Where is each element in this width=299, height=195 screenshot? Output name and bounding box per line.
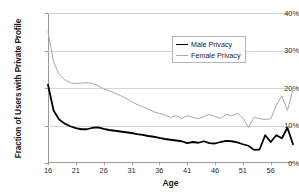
x-tick-label: 16 bbox=[35, 166, 61, 175]
y-axis-title: Fraction of Users with Private Profile bbox=[14, 14, 23, 164]
y-tick-label: 10% bbox=[255, 121, 299, 130]
x-tick-label: 51 bbox=[230, 166, 256, 175]
legend-item-male: Male Privacy bbox=[176, 39, 245, 50]
x-tick-label: 56 bbox=[258, 166, 284, 175]
x-tick-label: 36 bbox=[146, 166, 172, 175]
x-tick-label: 46 bbox=[202, 166, 228, 175]
chart-legend: Male Privacy Female Privacy bbox=[172, 36, 246, 63]
y-tick-mark bbox=[45, 126, 48, 127]
x-tick-label: 31 bbox=[119, 166, 145, 175]
y-tick-mark bbox=[45, 88, 48, 89]
legend-label-male: Male Privacy bbox=[191, 40, 232, 49]
x-tick-label: 41 bbox=[174, 166, 200, 175]
x-tick-mark bbox=[243, 162, 244, 165]
x-axis-title: Age bbox=[48, 178, 293, 188]
line-chart: Fraction of Users with Private Profile 0… bbox=[0, 0, 299, 195]
x-tick-mark bbox=[271, 162, 272, 165]
x-tick-mark bbox=[48, 162, 49, 165]
y-tick-label: 40% bbox=[255, 9, 299, 18]
x-tick-mark bbox=[76, 162, 77, 165]
y-tick-mark bbox=[45, 51, 48, 52]
x-tick-mark bbox=[215, 162, 216, 165]
x-tick-mark bbox=[187, 162, 188, 165]
y-tick-label: 30% bbox=[255, 46, 299, 55]
y-tick-label: 20% bbox=[255, 84, 299, 93]
legend-item-female: Female Privacy bbox=[176, 50, 245, 61]
male-line-swatch-icon bbox=[176, 44, 188, 45]
x-tick-label: 26 bbox=[91, 166, 117, 175]
female-line-swatch-icon bbox=[176, 55, 188, 56]
x-tick-mark bbox=[132, 162, 133, 165]
legend-label-female: Female Privacy bbox=[191, 51, 241, 60]
x-tick-label: 21 bbox=[63, 166, 89, 175]
y-tick-mark bbox=[45, 13, 48, 14]
x-tick-mark bbox=[159, 162, 160, 165]
x-tick-mark bbox=[104, 162, 105, 165]
